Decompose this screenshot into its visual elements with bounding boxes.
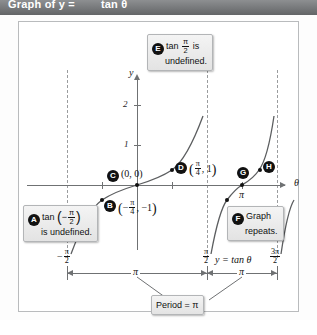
- point-g-dot: [240, 183, 244, 187]
- callout-f-line2: repeats.: [232, 225, 278, 237]
- header-title-suffix: tan θ: [101, 0, 128, 10]
- x-tick-label-pi: π: [239, 189, 244, 200]
- callout-e-line2: undefined.: [152, 55, 207, 67]
- badge-d[interactable]: D: [175, 162, 187, 174]
- page-title: Graph of y =tan θ: [8, 0, 127, 10]
- callout-f[interactable]: FGraph repeats.: [227, 206, 284, 241]
- three-half-pi-fraction: 3π2: [270, 248, 280, 266]
- point-b-close-paren: ): [152, 201, 157, 216]
- badge-f: F: [232, 213, 244, 225]
- figure-header-bar: Graph of y =tan θ: [0, 0, 317, 15]
- neg-sign: −: [57, 251, 63, 262]
- callout-a[interactable]: Atan (−π2) is undefined.: [23, 205, 98, 242]
- callout-e-line1-text: tan: [166, 41, 179, 51]
- point-d-fraction: π4: [195, 160, 201, 178]
- callout-a-line1-text: tan: [42, 212, 55, 222]
- badge-g[interactable]: G: [237, 167, 249, 179]
- x-tick-label-half-pi: π2: [202, 248, 210, 266]
- point-d-comma: ,: [202, 163, 205, 174]
- badge-a: A: [28, 214, 40, 226]
- badge-h[interactable]: H: [263, 161, 275, 173]
- point-b-sign: −: [123, 202, 129, 213]
- badge-e: E: [152, 43, 164, 55]
- callout-a-fraction: π2: [68, 209, 75, 225]
- figure-panel: θ y 2 1 B C D G H (0,: [0, 15, 317, 320]
- callout-e-line1-tail: is: [193, 41, 200, 51]
- x-tick-label-three-half-pi: 3π2: [269, 248, 281, 266]
- point-d-dot: [170, 168, 174, 172]
- point-b-dot: [100, 198, 104, 202]
- period-box[interactable]: Period = π: [151, 295, 204, 315]
- header-title-prefix: Graph of y =: [8, 0, 75, 10]
- callout-e[interactable]: Etan π2 is undefined.: [147, 34, 213, 71]
- point-c-label: (0, 0): [121, 168, 143, 179]
- point-f-dot: [225, 198, 229, 202]
- callout-f-line1: Graph: [246, 211, 271, 221]
- point-d-label: (π4, 1): [189, 160, 216, 178]
- point-h-dot: [258, 168, 262, 172]
- point-b-comma: ,: [136, 202, 139, 213]
- x-tick-label-neg-half-pi: −π2: [57, 248, 71, 266]
- callout-a-line2: is undefined.: [28, 226, 92, 238]
- curve-label: y = tan θ: [215, 254, 251, 265]
- point-b-fraction: π4: [129, 199, 135, 217]
- half-pi-fraction: π2: [203, 248, 209, 266]
- badge-b[interactable]: B: [104, 200, 116, 212]
- point-c-dot: [135, 183, 139, 187]
- callout-a-sign: −: [62, 212, 67, 222]
- badge-c[interactable]: C: [107, 170, 119, 182]
- point-d-open-paren: (: [189, 162, 194, 177]
- neg-half-pi-fraction: π2: [64, 248, 70, 266]
- callout-e-fraction: π2: [182, 38, 189, 54]
- point-d-close-paren: ): [212, 162, 217, 177]
- plot-frame: θ y 2 1 B C D G H (0,: [18, 21, 299, 312]
- point-b-label: (−π4, −1): [118, 199, 157, 217]
- point-b-yvalue: −1: [141, 202, 152, 213]
- callout-a-close-paren: ): [76, 209, 81, 225]
